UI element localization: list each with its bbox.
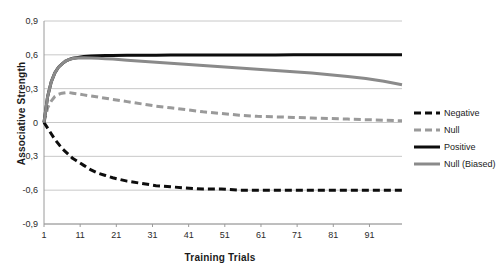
legend-item[interactable]: Negative [414,108,496,118]
gridlines [44,21,402,224]
legend-swatch [414,159,440,169]
legend-swatch [414,142,440,152]
legend-label: Null [444,125,460,135]
legend-label: Null (Biased) [444,159,496,169]
legend-label: Positive [444,142,476,152]
series-line [44,93,402,123]
legend-swatch [414,125,440,135]
legend: NegativeNullPositiveNull (Biased) [414,108,496,169]
legend-label: Negative [444,108,480,118]
legend-swatch [414,108,440,118]
legend-item[interactable]: Positive [414,142,496,152]
chart-container: Associative Strength Training Trials 0,9… [0,0,504,274]
legend-item[interactable]: Null (Biased) [414,159,496,169]
legend-item[interactable]: Null [414,125,496,135]
axis-lines [44,21,402,227]
